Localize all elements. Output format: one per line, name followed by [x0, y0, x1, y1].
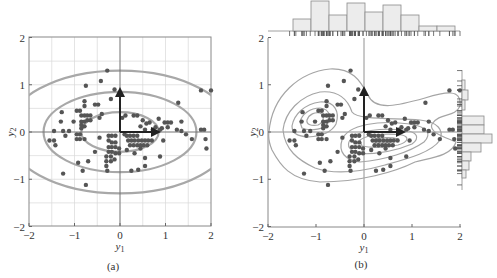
data-point: [125, 148, 129, 152]
data-point: [150, 138, 154, 142]
data-point: [135, 134, 139, 138]
data-point: [427, 129, 431, 133]
data-point: [113, 140, 117, 144]
data-point: [368, 113, 372, 117]
data-point: [343, 112, 347, 116]
data-point: [209, 88, 213, 92]
data-point: [347, 159, 351, 163]
data-point: [78, 109, 82, 113]
data-point: [112, 157, 116, 161]
data-point: [78, 132, 82, 136]
panel-a: −2−1012−2−1012 y1 y2 (a): [4, 32, 234, 274]
data-point: [352, 154, 356, 158]
data-point: [407, 138, 411, 142]
data-point: [80, 169, 84, 173]
data-point: [84, 83, 88, 87]
data-point: [184, 132, 188, 136]
data-point: [383, 124, 387, 128]
data-point: [109, 97, 113, 101]
x-tick-label: 1: [163, 229, 169, 241]
y-tick-label: 1: [259, 79, 265, 91]
data-point: [143, 164, 147, 168]
data-point: [202, 127, 206, 131]
data-point: [76, 161, 80, 165]
data-point: [153, 125, 157, 129]
data-point: [169, 120, 173, 124]
data-point: [166, 125, 170, 129]
data-point: [82, 137, 86, 141]
data-point: [431, 132, 435, 136]
data-point: [67, 129, 71, 133]
data-point: [113, 134, 117, 138]
data-point: [372, 134, 376, 138]
data-point: [320, 132, 324, 136]
data-point: [84, 183, 88, 187]
data-point: [320, 109, 324, 113]
data-point: [175, 127, 179, 131]
data-point: [96, 102, 100, 106]
data-point: [406, 126, 410, 130]
data-point: [377, 138, 381, 142]
data-point: [374, 169, 378, 173]
data-point: [61, 171, 65, 175]
data-point: [105, 169, 109, 173]
data-point: [423, 101, 427, 105]
x-tick-label: 1: [409, 230, 415, 242]
data-point: [403, 117, 407, 121]
data-point: [117, 151, 121, 155]
data-point: [353, 134, 357, 138]
data-point: [160, 126, 164, 130]
data-point: [353, 140, 357, 144]
data-point: [294, 143, 298, 147]
data-point: [299, 119, 303, 123]
data-point: [321, 126, 325, 130]
data-point: [438, 137, 442, 141]
data-point: [308, 129, 312, 133]
data-point: [399, 125, 403, 129]
data-point: [388, 164, 392, 168]
data-point: [393, 120, 397, 124]
y-tick-label: −1: [252, 173, 264, 185]
data-point: [369, 148, 373, 152]
y-tick-label: 0: [20, 126, 26, 138]
data-point: [352, 97, 356, 101]
data-point: [356, 87, 360, 91]
data-point: [422, 127, 426, 131]
data-point: [416, 120, 420, 124]
marginal-histogram-right: [457, 70, 492, 190]
data-point: [53, 143, 57, 147]
data-point: [82, 104, 86, 108]
data-point: [342, 79, 346, 83]
data-point: [391, 143, 395, 147]
data-point: [199, 88, 203, 92]
data-point: [147, 120, 151, 124]
data-point: [387, 143, 391, 147]
data-point: [203, 137, 207, 141]
data-point: [99, 79, 103, 83]
data-point: [86, 159, 90, 163]
data-point: [71, 119, 75, 123]
caption-b: (b): [355, 258, 368, 271]
data-point: [353, 150, 357, 154]
y-axis-label-a: y2: [4, 128, 18, 138]
data-point: [320, 137, 324, 141]
data-point: [357, 134, 361, 138]
data-point: [452, 137, 456, 141]
data-point: [331, 118, 335, 122]
data-point: [61, 129, 65, 133]
data-point: [104, 159, 108, 163]
data-point: [348, 68, 352, 72]
y-tick-label: −1: [13, 173, 25, 185]
y-tick-label: −2: [252, 221, 264, 233]
data-point: [141, 118, 145, 122]
data-point: [161, 138, 165, 142]
x-axis-label-b: y1: [359, 241, 369, 255]
data-point: [328, 159, 332, 163]
data-point: [52, 129, 56, 133]
data-point: [381, 168, 385, 172]
data-point: [156, 117, 160, 121]
data-point: [60, 110, 64, 114]
data-point: [204, 146, 208, 150]
data-point: [357, 151, 361, 155]
data-point: [109, 154, 113, 158]
